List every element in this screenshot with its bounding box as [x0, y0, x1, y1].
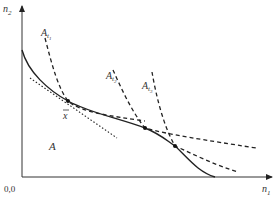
curve-a-t3	[152, 72, 238, 172]
curve-a-t2	[113, 70, 256, 148]
point-xbar	[66, 99, 70, 103]
label-a-t3: At3	[141, 80, 153, 94]
tangent-line	[30, 78, 117, 138]
label-a-t2: At2	[105, 70, 117, 84]
point-t3	[173, 144, 177, 148]
boundary-curve	[22, 50, 215, 177]
point-t2	[143, 126, 147, 130]
x-axis-label: n1	[262, 183, 271, 197]
diagram: n2 n1 0,0 At1 At2 At3 x A	[0, 0, 276, 198]
y-axis-label: n2	[3, 3, 12, 17]
curve-a-t1	[45, 38, 145, 121]
set-a-label: A	[48, 140, 56, 152]
xbar-label: x	[62, 110, 68, 121]
origin-label: 0,0	[4, 184, 16, 194]
